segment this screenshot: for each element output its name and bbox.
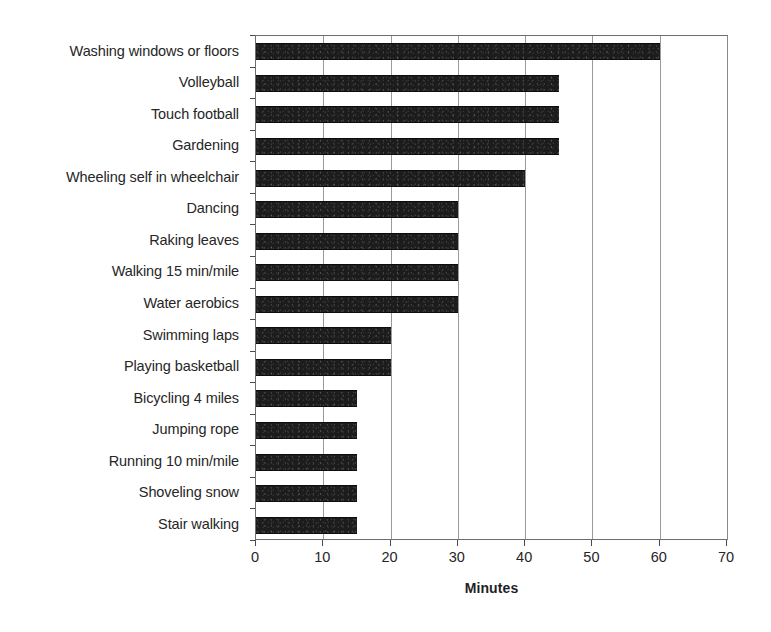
x-axis-tick-label: 20 bbox=[381, 550, 397, 565]
category-label: Running 10 min/mile bbox=[109, 454, 248, 469]
category-row: Running 10 min/mile bbox=[0, 445, 248, 477]
category-label: Gardening bbox=[172, 138, 248, 153]
bar-row bbox=[256, 390, 727, 407]
bar[interactable] bbox=[256, 233, 458, 250]
category-row: Swimming laps bbox=[0, 319, 248, 351]
bar-row bbox=[256, 422, 727, 439]
category-label: Washing windows or floors bbox=[70, 44, 248, 59]
x-axis-tick bbox=[591, 540, 592, 546]
bar[interactable] bbox=[256, 170, 525, 187]
category-label: Dancing bbox=[187, 201, 249, 216]
bar-row bbox=[256, 327, 727, 344]
bar-row bbox=[256, 106, 727, 123]
bar[interactable] bbox=[256, 106, 559, 123]
bar[interactable] bbox=[256, 75, 559, 92]
bars-layer bbox=[256, 36, 727, 539]
bar-row bbox=[256, 233, 727, 250]
bar[interactable] bbox=[256, 264, 458, 281]
bar-row bbox=[256, 485, 727, 502]
category-row: Volleyball bbox=[0, 67, 248, 99]
category-row: Bicycling 4 miles bbox=[0, 382, 248, 414]
bar[interactable] bbox=[256, 517, 357, 534]
bar[interactable] bbox=[256, 485, 357, 502]
bar[interactable] bbox=[256, 454, 357, 471]
bar-row bbox=[256, 264, 727, 281]
category-label: Swimming laps bbox=[143, 328, 248, 343]
bar-row bbox=[256, 296, 727, 313]
x-axis-tick bbox=[457, 540, 458, 546]
bar-row bbox=[256, 75, 727, 92]
x-axis-tick-label: 70 bbox=[718, 550, 734, 565]
category-row: Touch football bbox=[0, 98, 248, 130]
x-axis-tick bbox=[659, 540, 660, 546]
x-axis-tick bbox=[322, 540, 323, 546]
bar[interactable] bbox=[256, 138, 559, 155]
bar[interactable] bbox=[256, 422, 357, 439]
category-label: Walking 15 min/mile bbox=[112, 264, 248, 279]
bar[interactable] bbox=[256, 359, 391, 376]
x-axis-title: Minutes bbox=[255, 580, 728, 596]
bar[interactable] bbox=[256, 390, 357, 407]
category-label: Jumping rope bbox=[152, 422, 248, 437]
category-axis: Washing windows or floorsVolleyballTouch… bbox=[0, 35, 248, 540]
category-row: Playing basketball bbox=[0, 351, 248, 383]
bar[interactable] bbox=[256, 296, 458, 313]
category-row: Walking 15 min/mile bbox=[0, 256, 248, 288]
category-label: Raking leaves bbox=[149, 233, 248, 248]
bar-row bbox=[256, 454, 727, 471]
x-axis-tick-label: 10 bbox=[314, 550, 330, 565]
category-row: Water aerobics bbox=[0, 288, 248, 320]
plot-area bbox=[255, 35, 728, 540]
x-axis-tick-label: 40 bbox=[516, 550, 532, 565]
category-row: Stair walking bbox=[0, 508, 248, 540]
bar-row bbox=[256, 138, 727, 155]
x-axis-tick-label: 60 bbox=[651, 550, 667, 565]
bar[interactable] bbox=[256, 43, 660, 60]
category-label: Wheeling self in wheelchair bbox=[66, 170, 248, 185]
category-label: Volleyball bbox=[179, 75, 248, 90]
x-axis-tick-label: 30 bbox=[449, 550, 465, 565]
category-row: Wheeling self in wheelchair bbox=[0, 161, 248, 193]
x-axis-tick bbox=[726, 540, 727, 546]
category-label: Touch football bbox=[151, 107, 248, 122]
category-row: Dancing bbox=[0, 193, 248, 225]
category-label: Bicycling 4 miles bbox=[134, 391, 248, 406]
x-axis-tick-labels: 010203040506070 bbox=[255, 550, 728, 572]
bar-row bbox=[256, 43, 727, 60]
bar-row bbox=[256, 359, 727, 376]
category-row: Shoveling snow bbox=[0, 477, 248, 509]
x-axis-ticks bbox=[255, 540, 728, 547]
bar[interactable] bbox=[256, 201, 458, 218]
bar-row bbox=[256, 170, 727, 187]
bar-row bbox=[256, 201, 727, 218]
category-row: Washing windows or floors bbox=[0, 35, 248, 67]
category-row: Raking leaves bbox=[0, 224, 248, 256]
bar-chart: Washing windows or floorsVolleyballTouch… bbox=[0, 0, 771, 632]
category-row: Gardening bbox=[0, 130, 248, 162]
x-axis-tick-label: 50 bbox=[583, 550, 599, 565]
x-axis-tick bbox=[390, 540, 391, 546]
bar[interactable] bbox=[256, 327, 391, 344]
x-axis-tick bbox=[255, 540, 256, 546]
x-axis-tick-label: 0 bbox=[251, 550, 259, 565]
category-label: Shoveling snow bbox=[139, 485, 248, 500]
category-label: Playing basketball bbox=[124, 359, 248, 374]
category-label: Stair walking bbox=[158, 517, 248, 532]
bar-row bbox=[256, 517, 727, 534]
category-label: Water aerobics bbox=[143, 296, 248, 311]
category-row: Jumping rope bbox=[0, 414, 248, 446]
x-axis-tick bbox=[524, 540, 525, 546]
